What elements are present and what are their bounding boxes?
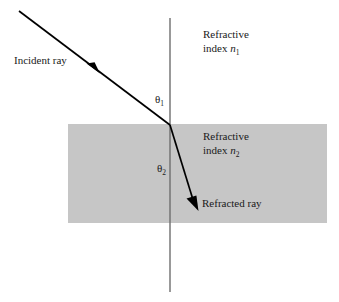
refraction-diagram: θ1 θ2 Incident ray Refracted ray Refract… — [0, 0, 339, 302]
upper-medium-label-line2: index n1 — [203, 42, 240, 57]
angle-of-incidence-label: θ1 — [155, 93, 164, 108]
incident-ray-label: Incident ray — [14, 54, 67, 66]
incident-ray-arrowhead — [87, 62, 101, 73]
refracted-ray-label: Refracted ray — [202, 197, 262, 209]
diagram-canvas: θ1 θ2 Incident ray Refracted ray Refract… — [0, 0, 339, 302]
lower-medium-label-line1: Refractive — [203, 130, 249, 142]
upper-medium-label-line1: Refractive — [203, 28, 249, 40]
